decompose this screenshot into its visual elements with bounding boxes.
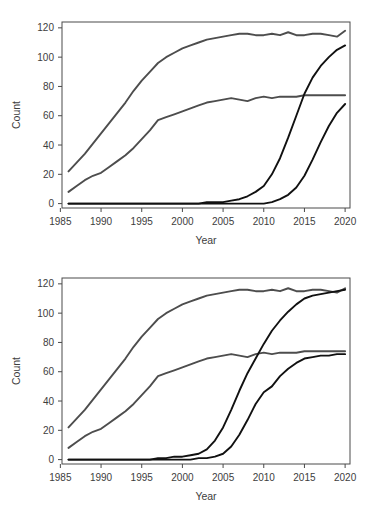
y-tick-label: 120 bbox=[37, 278, 54, 289]
x-tick-label: 2010 bbox=[253, 216, 276, 227]
x-axis-title: Year bbox=[195, 234, 217, 246]
plot-frame bbox=[62, 22, 350, 208]
series-line bbox=[69, 354, 346, 459]
chart-bottom: 0204060801001201985199019952000200520102… bbox=[0, 256, 374, 512]
x-tick-label: 2015 bbox=[293, 216, 316, 227]
series-line bbox=[69, 290, 346, 460]
x-tick-label: 1990 bbox=[90, 472, 113, 483]
y-tick-label: 120 bbox=[37, 22, 54, 33]
x-tick-label: 2000 bbox=[171, 216, 194, 227]
y-axis-title: Count bbox=[10, 101, 22, 129]
y-tick-label: 100 bbox=[37, 308, 54, 319]
y-axis-title: Count bbox=[10, 357, 22, 385]
x-tick-label: 1995 bbox=[131, 216, 154, 227]
x-tick-label: 2005 bbox=[212, 472, 235, 483]
series-line bbox=[69, 45, 346, 203]
x-tick-label: 1985 bbox=[49, 472, 72, 483]
y-tick-label: 40 bbox=[43, 140, 55, 151]
x-tick-label: 1995 bbox=[131, 472, 154, 483]
y-tick-label: 60 bbox=[43, 366, 55, 377]
x-tick-label: 1990 bbox=[90, 216, 113, 227]
series-line bbox=[69, 104, 346, 204]
y-tick-label: 0 bbox=[48, 454, 54, 465]
y-tick-label: 60 bbox=[43, 110, 55, 121]
x-tick-label: 2000 bbox=[171, 472, 194, 483]
series-line bbox=[69, 31, 346, 172]
y-tick-label: 0 bbox=[48, 198, 54, 209]
plot-frame bbox=[62, 278, 350, 464]
x-tick-label: 2015 bbox=[293, 472, 316, 483]
y-tick-label: 100 bbox=[37, 52, 54, 63]
x-tick-label: 2010 bbox=[253, 472, 276, 483]
x-tick-label: 2005 bbox=[212, 216, 235, 227]
y-tick-label: 40 bbox=[43, 396, 55, 407]
chart-top: 0204060801001201985199019952000200520102… bbox=[0, 0, 374, 256]
x-tick-label: 2020 bbox=[334, 216, 357, 227]
x-tick-label: 1985 bbox=[49, 216, 72, 227]
series-line bbox=[69, 351, 346, 448]
y-tick-label: 80 bbox=[43, 81, 55, 92]
y-tick-label: 80 bbox=[43, 337, 55, 348]
x-tick-label: 2020 bbox=[334, 472, 357, 483]
y-tick-label: 20 bbox=[43, 169, 55, 180]
chart-panel-bottom: 0204060801001201985199019952000200520102… bbox=[0, 256, 374, 512]
x-axis-title: Year bbox=[195, 490, 217, 502]
y-tick-label: 20 bbox=[43, 425, 55, 436]
chart-panel-top: 0204060801001201985199019952000200520102… bbox=[0, 0, 374, 256]
